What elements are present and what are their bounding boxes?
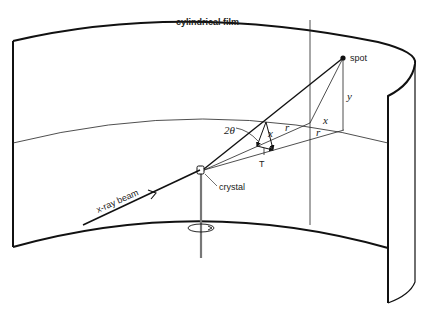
rotation-arrowhead-icon <box>208 226 212 230</box>
crystal-icon <box>197 166 204 174</box>
ray-to-base <box>204 130 344 170</box>
T-label: T <box>259 159 265 169</box>
r-upper-label: r <box>285 121 290 133</box>
r-lower-label: r <box>316 126 321 138</box>
film-middle-arc <box>13 119 388 143</box>
x-label: x <box>322 114 328 126</box>
film-right-inner-edge <box>388 64 415 303</box>
cylindrical-film-diagram: x-ray beam cylindrical film spot crystal… <box>0 0 428 310</box>
film-label: cylindrical film <box>176 17 239 27</box>
xray-beam: x-ray beam <box>83 170 200 225</box>
spot-label: spot <box>350 53 368 63</box>
vector-c <box>257 146 273 150</box>
beam-line <box>83 170 200 225</box>
y-label: y <box>346 90 352 102</box>
crystal-leader <box>205 174 217 186</box>
angle-label: 2θ <box>224 124 236 136</box>
diffraction-rays <box>204 55 346 170</box>
film-right-outer-edge <box>388 64 415 303</box>
crystal-mount <box>188 166 214 258</box>
vector-x-label: x <box>267 127 273 139</box>
crystal-label: crystal <box>219 182 245 192</box>
spot-marker <box>340 55 345 60</box>
